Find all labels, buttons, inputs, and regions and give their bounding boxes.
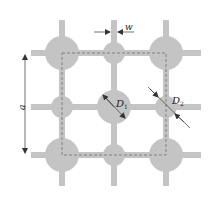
circles bbox=[45, 36, 183, 172]
unit-cell-diagram: a w D1 D2 bbox=[0, 0, 213, 200]
d2-arrow-head-b bbox=[175, 114, 184, 122]
d2-label: D2 bbox=[171, 95, 184, 107]
d2-arrow-head-a bbox=[150, 89, 158, 97]
a-label: a bbox=[17, 105, 27, 110]
w-label: w bbox=[125, 22, 133, 32]
